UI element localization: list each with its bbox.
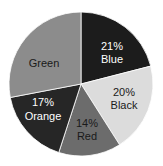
label-orange-pct: 17% [32,96,54,108]
pie-chart: 21% Blue 20% Black 14% Red 17% Orange Gr… [0,0,163,166]
slice-green [9,12,81,97]
label-black: Black [111,99,138,111]
label-red-pct: 14% [76,117,98,129]
label-orange: Orange [25,110,62,122]
label-blue: Blue [101,53,123,65]
label-green: Green [29,57,60,69]
label-black-pct: 20% [113,86,135,98]
label-red: Red [77,130,97,142]
label-blue-pct: 21% [101,40,123,52]
